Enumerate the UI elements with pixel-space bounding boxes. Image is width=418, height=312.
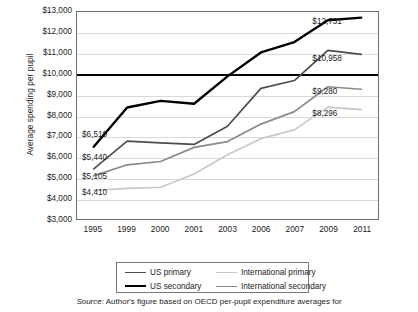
y-tick-13000: $13,000 [14, 6, 72, 15]
legend-swatch-line-icon [216, 272, 237, 273]
y-tick-3000: $3,000 [14, 215, 72, 224]
legend-item-us-secondary[interactable]: US secondary [125, 279, 201, 293]
source-text: Author's figure based on OECD per-pupil … [104, 297, 342, 306]
value-label-4410: $4,410 [82, 188, 107, 197]
y-tick-9000: $9,000 [14, 90, 72, 99]
legend-label: International secondary [241, 282, 326, 291]
legend-swatch-line-icon [216, 286, 237, 287]
source-keyword: Source: [76, 297, 104, 306]
legend-item-international-primary[interactable]: International primary [216, 265, 316, 279]
y-tick-4000: $4,000 [14, 194, 72, 203]
chart-legend: US primaryInternational primaryUS second… [116, 262, 309, 293]
y-tick-5000: $5,000 [14, 173, 72, 182]
y-tick-7000: $7,000 [14, 131, 72, 140]
series-line-international-primary [94, 107, 362, 190]
legend-label: International primary [241, 268, 316, 277]
x-tick-2011: 2011 [340, 224, 384, 234]
chart-figure: Average spending per pupil $3,000$4,000$… [0, 0, 418, 312]
y-tick-12000: $12,000 [14, 27, 72, 36]
legend-label: US secondary [150, 282, 201, 291]
y-tick-10000: $10,000 [14, 69, 72, 78]
value-label-12731: $12,731 [312, 17, 342, 26]
legend-swatch-line-icon [125, 272, 146, 273]
legend-item-us-primary[interactable]: US primary [125, 265, 191, 279]
value-label-10958: $10,958 [312, 54, 342, 63]
value-label-9280: $9,280 [312, 87, 337, 96]
value-label-5440: $5,440 [82, 153, 107, 162]
value-label-6510: $6,510 [82, 130, 107, 139]
source-note: Source: Author's figure based on OECD pe… [0, 297, 418, 306]
y-tick-6000: $6,000 [14, 152, 72, 161]
value-label-8296: $8,296 [312, 109, 337, 118]
legend-item-international-secondary[interactable]: International secondary [216, 279, 326, 293]
value-label-5105: $5,105 [82, 172, 107, 181]
legend-swatch-line-icon [125, 285, 146, 287]
series-line-us-secondary [94, 18, 362, 147]
y-tick-8000: $8,000 [14, 111, 72, 120]
y-tick-11000: $11,000 [14, 48, 72, 57]
legend-label: US primary [150, 268, 191, 277]
series-line-international-secondary [94, 87, 362, 176]
